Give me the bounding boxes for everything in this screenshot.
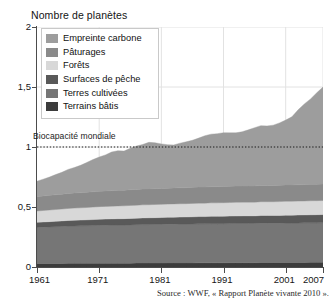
legend-swatch-icon <box>46 48 58 57</box>
legend-item: Pâturages <box>46 46 154 60</box>
legend-item-label: Surfaces de pêche <box>63 75 141 84</box>
legend-item: Forêts <box>46 59 154 73</box>
y-tick-label: 0,5 <box>5 202 31 212</box>
y-tick-label: 0 <box>5 262 31 272</box>
x-tick <box>323 268 324 273</box>
x-tick-label: 2007 <box>303 275 324 285</box>
biocapacity-annotation-label: Biocapacité mondiale <box>33 131 116 141</box>
legend-swatch-icon <box>46 89 58 98</box>
legend-box: Empreinte carbonePâturagesForêtsSurfaces… <box>41 28 159 119</box>
y-tick <box>32 27 37 28</box>
legend-item-label: Forêts <box>63 61 89 70</box>
x-tick <box>161 268 162 273</box>
x-tick <box>286 268 287 273</box>
source-caption: Source : WWF, « Rapport Planète vivante … <box>0 288 329 298</box>
x-tick-label: 1981 <box>149 275 170 285</box>
y-tick <box>32 147 37 148</box>
x-tick-label: 1961 <box>29 275 50 285</box>
y-tick-label: 2 <box>5 22 31 32</box>
y-tick-label: 1,5 <box>5 82 31 92</box>
legend-item-label: Terres cultivées <box>63 89 128 98</box>
legend-swatch-icon <box>46 102 58 111</box>
x-tick <box>37 268 38 273</box>
legend-item: Surfaces de pêche <box>46 73 154 87</box>
legend-item-label: Pâturages <box>63 48 105 57</box>
x-tick <box>224 268 225 273</box>
figure-root: Nombre de planètes 00,511,52 19611971198… <box>0 0 333 306</box>
legend-item-label: Terrains bâtis <box>63 102 118 111</box>
area-terres-cultiv-es <box>37 223 323 264</box>
legend-item: Terrains bâtis <box>46 100 154 114</box>
y-tick-label: 1 <box>5 142 31 152</box>
legend-swatch-icon <box>46 61 58 70</box>
legend-item: Terres cultivées <box>46 86 154 100</box>
legend-swatch-icon <box>46 34 58 43</box>
legend-item: Empreinte carbone <box>46 32 154 46</box>
y-tick-labels: 00,511,52 <box>0 0 31 306</box>
x-tick-label: 1971 <box>87 275 108 285</box>
x-tick-label: 1991 <box>212 275 233 285</box>
x-axis-line <box>36 267 324 268</box>
y-axis-title: Nombre de planètes <box>31 9 127 21</box>
x-tick-label: 2001 <box>274 275 295 285</box>
legend-item-label: Empreinte carbone <box>63 34 142 43</box>
legend-swatch-icon <box>46 75 58 84</box>
y-tick <box>32 87 37 88</box>
x-tick <box>99 268 100 273</box>
y-tick <box>32 207 37 208</box>
